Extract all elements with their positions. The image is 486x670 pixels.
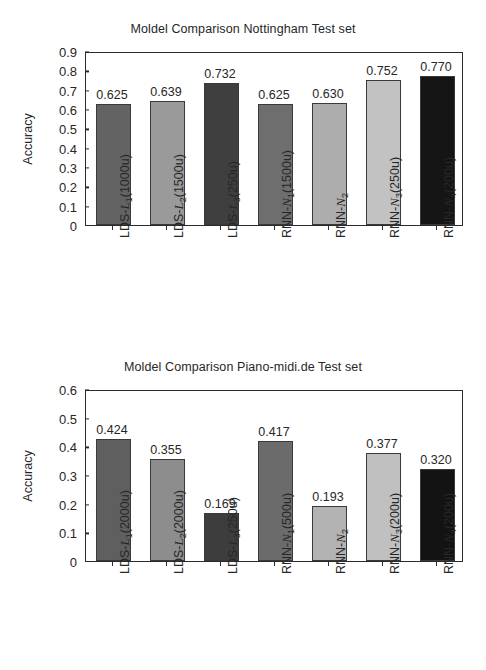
y-axis-tick-mark	[85, 51, 89, 52]
x-axis-tick-mark	[436, 562, 437, 566]
x-axis-category-label: RNN-N1(1500u)	[280, 150, 294, 238]
x-axis-category-label: RNN-N1(500u)	[280, 493, 294, 574]
y-axis-tick-mark	[85, 504, 89, 505]
y-axis-tick-mark	[85, 90, 89, 91]
x-axis-category-label: RNN-N4(200u)	[442, 157, 456, 238]
bar-value-label: 0.169	[204, 498, 235, 511]
bars-container-nottingham	[86, 53, 462, 225]
y-axis-label-piano-midi: Accuracy	[21, 450, 35, 501]
x-axis-tick-mark	[382, 562, 383, 566]
y-axis-tick-mark	[85, 475, 89, 476]
x-axis-category-label: RNN-N4(200u)	[442, 493, 456, 574]
x-axis-category-label: LDS-L1(2000u)	[118, 490, 132, 574]
x-axis-category-label: RNN-N2	[334, 529, 348, 574]
bar-value-label: 0.630	[312, 88, 343, 101]
y-axis-tick-label: 0.5	[59, 123, 77, 136]
y-axis-tick-label: 0.7	[59, 84, 77, 97]
y-axis-tick-mark	[85, 167, 89, 168]
bar-value-label: 0.625	[258, 89, 289, 102]
y-axis-tick-label: 0	[70, 556, 77, 569]
x-axis-category-label: RNN-N3(250u)	[388, 157, 402, 238]
y-axis-tick-label: 0.1	[59, 200, 77, 213]
y-axis-tick-label: 0.4	[59, 142, 77, 155]
y-axis-tick-label: 0.1	[59, 527, 77, 540]
y-axis-tick-mark	[85, 389, 89, 390]
x-axis-category-label: LDS-L1(1000u)	[118, 154, 132, 238]
bars-container-piano-midi	[86, 391, 462, 561]
x-axis-tick-mark	[220, 226, 221, 230]
bar-value-label: 0.320	[420, 454, 451, 467]
y-axis-tick-mark	[85, 533, 89, 534]
x-axis-tick-mark	[112, 226, 113, 230]
x-axis-category-label: LDS-L2(1500u)	[172, 154, 186, 238]
y-axis-tick-mark	[85, 129, 89, 130]
bar-value-label: 0.625	[96, 89, 127, 102]
y-axis-tick-mark	[85, 148, 89, 149]
y-axis-tick-label: 0.2	[59, 181, 77, 194]
x-axis-category-label: LDS-L3(250u)	[226, 161, 240, 238]
y-axis-tick-label: 0	[70, 220, 77, 233]
chart-title-piano-midi: Moldel Comparison Piano-midi.de Test set	[0, 360, 486, 374]
y-axis-tick-label: 0.8	[59, 65, 77, 78]
x-axis-category-label: RNN-N2	[334, 193, 348, 238]
x-axis-tick-mark	[166, 562, 167, 566]
y-axis-label-nottingham: Accuracy	[21, 113, 35, 164]
x-axis-tick-mark	[382, 226, 383, 230]
x-axis-category-label: RNN-N3(200u)	[388, 493, 402, 574]
y-axis-tick-label: 0.2	[59, 498, 77, 511]
bar-value-label: 0.770	[420, 61, 451, 74]
y-axis-tick-mark	[85, 418, 89, 419]
plot-area-nottingham	[85, 52, 463, 226]
bar-value-label: 0.639	[150, 86, 181, 99]
y-axis-tick-mark	[85, 187, 89, 188]
x-axis-tick-mark	[328, 226, 329, 230]
x-axis-tick-mark	[436, 226, 437, 230]
bar-value-label: 0.752	[366, 65, 397, 78]
chart-title-nottingham: Moldel Comparison Nottingham Test set	[0, 22, 486, 36]
x-axis-category-label: LDS-L2(2000u)	[172, 490, 186, 574]
bar-value-label: 0.424	[96, 424, 127, 437]
bar-value-label: 0.732	[204, 68, 235, 81]
x-axis-tick-mark	[220, 562, 221, 566]
x-axis-tick-mark	[112, 562, 113, 566]
y-axis-tick-mark	[85, 71, 89, 72]
bar-value-label: 0.417	[258, 426, 289, 439]
y-axis-tick-label: 0.6	[59, 104, 77, 117]
y-axis-tick-label: 0.9	[59, 46, 77, 59]
y-axis-tick-label: 0.6	[59, 384, 77, 397]
y-axis-tick-label: 0.3	[59, 162, 77, 175]
x-axis-tick-mark	[166, 226, 167, 230]
y-axis-tick-mark	[85, 109, 89, 110]
y-axis-tick-mark	[85, 447, 89, 448]
plot-area-piano-midi	[85, 390, 463, 562]
y-axis-tick-label: 0.3	[59, 470, 77, 483]
y-axis-tick-mark	[85, 206, 89, 207]
bar-value-label: 0.377	[366, 438, 397, 451]
x-axis-tick-mark	[274, 562, 275, 566]
chart-piano-midi: Moldel Comparison Piano-midi.de Test set…	[0, 338, 486, 670]
bar-value-label: 0.355	[150, 444, 181, 457]
y-axis-tick-label: 0.5	[59, 412, 77, 425]
y-axis-tick-label: 0.4	[59, 441, 77, 454]
x-axis-tick-mark	[328, 562, 329, 566]
x-axis-tick-mark	[274, 226, 275, 230]
chart-nottingham: Moldel Comparison Nottingham Test set Ac…	[0, 0, 486, 340]
bar-value-label: 0.193	[312, 491, 343, 504]
